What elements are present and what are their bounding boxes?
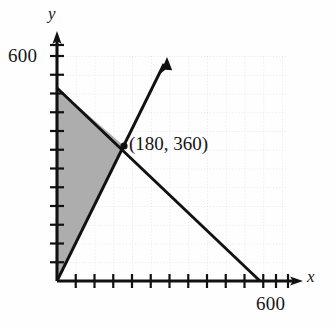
x-axis-tick-label-600: 600 [256, 294, 285, 313]
intersection-point-marker [120, 142, 127, 149]
graph-figure: y x 600 600 (180, 360) [0, 0, 334, 327]
x-axis-label: x [307, 268, 315, 285]
y-axis-tick-label-600: 600 [8, 46, 37, 65]
coordinate-plane-svg [0, 0, 334, 327]
intersection-point-label: (180, 360) [129, 134, 208, 153]
y-axis-label: y [48, 5, 56, 22]
